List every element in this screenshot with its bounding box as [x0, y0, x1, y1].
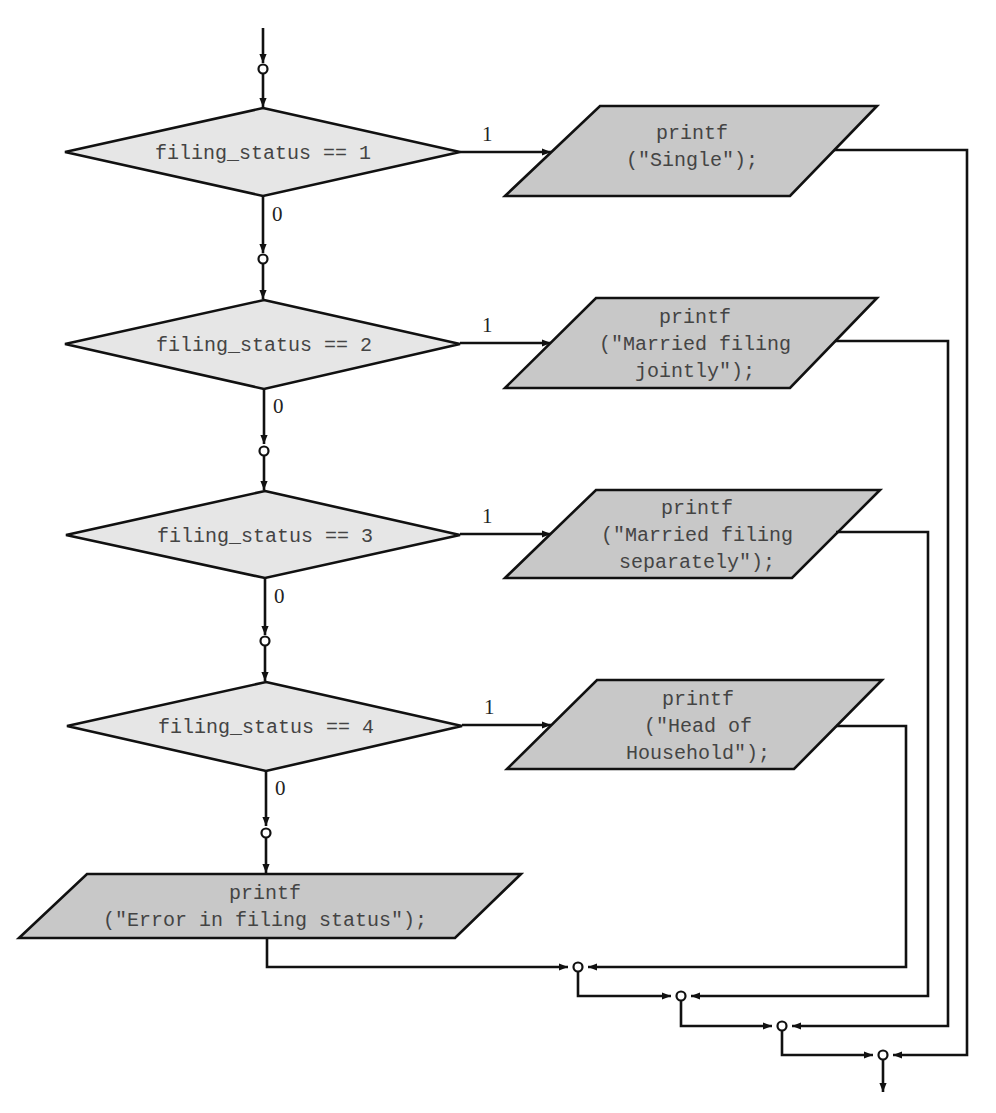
entry-flow: [259, 28, 268, 107]
decision-1-false-label: 0: [272, 202, 283, 226]
connector-node: [261, 637, 270, 646]
decision-3-true-label: 1: [482, 504, 493, 528]
output-2-line-2: ("Married filing: [599, 333, 791, 356]
output-1-line-1: printf: [656, 122, 728, 145]
decision-4[interactable]: filing_status == 4: [67, 682, 462, 771]
decision-1-condition: filing_status == 1: [155, 142, 371, 165]
connector-node: [260, 447, 269, 456]
decision-2-false-label: 0: [273, 394, 284, 418]
output-2-line-3: jointly");: [635, 360, 755, 383]
output-4-line-1: printf: [662, 688, 734, 711]
output-4-line-3: Household");: [626, 742, 770, 765]
output-5-line-1: printf: [229, 882, 301, 905]
decision-4-condition: filing_status == 4: [158, 716, 374, 739]
output-single[interactable]: printf ("Single");: [505, 106, 877, 196]
connector-node: [574, 963, 583, 972]
connector-node: [259, 255, 268, 264]
decision-2-condition: filing_status == 2: [156, 334, 372, 357]
decision-4-false-label: 0: [275, 776, 286, 800]
output-error[interactable]: printf ("Error in filing status");: [19, 874, 521, 938]
decision-1-true-label: 1: [482, 122, 493, 146]
flowchart-canvas: filing_status == 1 1 0 printf ("Single")…: [0, 0, 996, 1113]
output-head-of-household[interactable]: printf ("Head of Household");: [507, 680, 882, 769]
output-3-line-3: separately");: [619, 551, 775, 574]
output-1-line-2: ("Single");: [626, 149, 758, 172]
decision-3-false-label: 0: [274, 584, 285, 608]
decision-2-true-label: 1: [482, 313, 493, 337]
output-2-line-1: printf: [659, 306, 731, 329]
decision-3-condition: filing_status == 3: [157, 525, 373, 548]
connector-node: [778, 1022, 787, 1031]
decision-2[interactable]: filing_status == 2: [65, 300, 460, 389]
output-married-separately[interactable]: printf ("Married filing separately");: [505, 490, 880, 578]
output-3-line-2: ("Married filing: [601, 524, 793, 547]
connector-node: [879, 1051, 888, 1060]
decision-1[interactable]: filing_status == 1: [65, 108, 460, 196]
output-married-jointly[interactable]: printf ("Married filing jointly");: [505, 298, 877, 388]
connector-node: [262, 829, 271, 838]
output-4-line-2: ("Head of: [644, 715, 752, 738]
decision-3[interactable]: filing_status == 3: [66, 491, 460, 578]
connector-node: [677, 992, 686, 1001]
output-3-line-1: printf: [661, 497, 733, 520]
connector-node: [259, 65, 268, 74]
decision-4-true-label: 1: [484, 695, 495, 719]
output-5-line-2: ("Error in filing status");: [103, 909, 427, 932]
